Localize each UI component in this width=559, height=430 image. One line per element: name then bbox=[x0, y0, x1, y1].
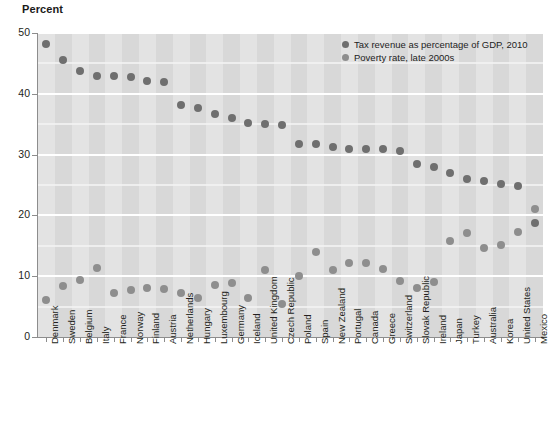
x-axis-category-label: Sweden bbox=[67, 310, 77, 344]
data-point bbox=[211, 110, 219, 118]
x-axis-category-label: Iceland bbox=[252, 313, 262, 344]
y-axis-tick bbox=[32, 276, 37, 277]
data-point bbox=[379, 265, 387, 273]
x-axis-category-label: Canada bbox=[370, 311, 380, 344]
gridline-major bbox=[38, 214, 543, 216]
y-axis-tick-label: 30 bbox=[0, 149, 30, 160]
data-point bbox=[312, 140, 320, 148]
x-axis-category-label: Spain bbox=[320, 320, 330, 344]
x-axis-tick bbox=[114, 338, 115, 342]
data-point bbox=[396, 277, 404, 285]
x-axis-tick bbox=[46, 338, 47, 342]
x-axis-tick bbox=[501, 338, 502, 342]
x-axis-category-label: Poland bbox=[303, 314, 313, 344]
data-point bbox=[194, 294, 202, 302]
cut-off-caption bbox=[0, 420, 559, 430]
x-axis-tick bbox=[164, 338, 165, 342]
x-axis-category-label: Australia bbox=[488, 307, 498, 344]
gridline-major bbox=[38, 93, 543, 95]
x-axis-category-label: Italy bbox=[101, 327, 111, 344]
data-point bbox=[76, 67, 84, 75]
data-point bbox=[244, 119, 252, 127]
x-axis-category-label: Germany bbox=[236, 305, 246, 344]
x-axis-tick bbox=[417, 338, 418, 342]
x-axis-tick bbox=[484, 338, 485, 342]
data-point bbox=[329, 143, 337, 151]
x-axis-tick bbox=[299, 338, 300, 342]
data-point bbox=[228, 114, 236, 122]
data-point bbox=[127, 286, 135, 294]
data-point bbox=[514, 182, 522, 190]
data-point bbox=[143, 77, 151, 85]
x-axis-category-label: Mexico bbox=[539, 314, 549, 344]
x-axis-category-label: Netherlands bbox=[185, 293, 195, 344]
data-point bbox=[295, 272, 303, 280]
data-point bbox=[143, 284, 151, 292]
y-axis-tick-label: 10 bbox=[0, 270, 30, 281]
gridline-minor bbox=[38, 123, 543, 125]
data-point bbox=[93, 264, 101, 272]
y-axis-tick bbox=[32, 94, 37, 95]
x-axis-tick bbox=[535, 338, 536, 342]
x-axis-tick bbox=[147, 338, 148, 342]
x-axis-tick bbox=[63, 338, 64, 342]
x-axis-tick bbox=[265, 338, 266, 342]
x-axis-category-label: Belgium bbox=[84, 310, 94, 344]
x-axis-category-label: Portugal bbox=[353, 309, 363, 344]
data-point bbox=[42, 40, 50, 48]
x-axis-category-label: Korea bbox=[505, 319, 515, 344]
data-point bbox=[110, 72, 118, 80]
legend-marker-icon bbox=[342, 54, 349, 61]
legend-marker-icon bbox=[342, 41, 349, 48]
x-axis-category-label: Ireland bbox=[438, 315, 448, 344]
x-axis-tick bbox=[181, 338, 182, 342]
data-point bbox=[312, 248, 320, 256]
data-point bbox=[329, 266, 337, 274]
x-axis-tick bbox=[349, 338, 350, 342]
y-axis-tick-label: 20 bbox=[0, 209, 30, 220]
x-axis-tick bbox=[80, 338, 81, 342]
x-axis-tick bbox=[434, 338, 435, 342]
x-axis-tick bbox=[198, 338, 199, 342]
data-point bbox=[531, 219, 539, 227]
x-axis-tick bbox=[333, 338, 334, 342]
x-axis-tick bbox=[518, 338, 519, 342]
data-point bbox=[446, 169, 454, 177]
x-axis-category-label: Austria bbox=[168, 314, 178, 344]
x-axis-category-label: Slovak Republic bbox=[421, 276, 431, 344]
data-point bbox=[76, 276, 84, 284]
data-point bbox=[345, 259, 353, 267]
x-axis-category-label: Norway bbox=[135, 312, 145, 344]
data-point bbox=[127, 73, 135, 81]
x-axis-category-label: Finland bbox=[151, 313, 161, 344]
data-point bbox=[177, 101, 185, 109]
x-axis-tick bbox=[97, 338, 98, 342]
chart-legend: Tax revenue as percentage of GDP, 2010 P… bbox=[342, 38, 528, 64]
gridline-minor bbox=[38, 245, 543, 247]
legend-label: Poverty rate, late 2000s bbox=[354, 52, 454, 63]
x-axis-tick bbox=[248, 338, 249, 342]
gridline-major bbox=[38, 154, 543, 156]
y-axis-line bbox=[37, 33, 38, 338]
x-axis-category-label: Hungary bbox=[202, 308, 212, 344]
x-axis-tick bbox=[282, 338, 283, 342]
data-point bbox=[42, 296, 50, 304]
x-axis-tick bbox=[215, 338, 216, 342]
y-axis-tick bbox=[32, 155, 37, 156]
y-axis-tick-label: 40 bbox=[0, 88, 30, 99]
x-axis-tick bbox=[131, 338, 132, 342]
data-point bbox=[379, 145, 387, 153]
data-point bbox=[211, 281, 219, 289]
y-axis-tick-label: 50 bbox=[0, 27, 30, 38]
x-axis-tick bbox=[467, 338, 468, 342]
x-axis-tick bbox=[232, 338, 233, 342]
data-point bbox=[446, 237, 454, 245]
x-axis-category-label: France bbox=[118, 314, 128, 344]
x-axis-tick bbox=[400, 338, 401, 342]
x-axis-category-label: New Zealand bbox=[337, 288, 347, 344]
legend-item: Poverty rate, late 2000s bbox=[342, 51, 528, 64]
y-axis-tick bbox=[32, 215, 37, 216]
x-axis-category-label: Greece bbox=[387, 313, 397, 344]
x-axis-category-label: Japan bbox=[454, 318, 464, 344]
x-axis-category-label: Czech Republic bbox=[286, 277, 296, 344]
